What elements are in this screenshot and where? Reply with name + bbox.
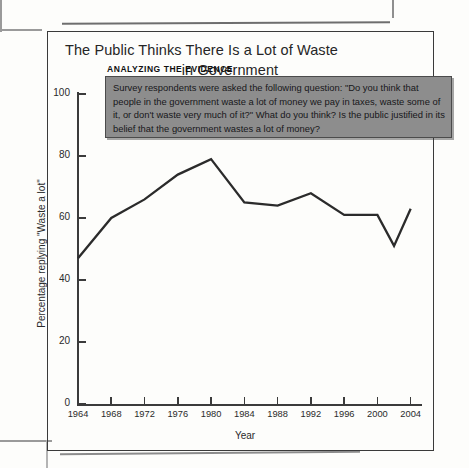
figure-title-line-1: The Public Thinks There Is a Lot of Wast… <box>57 40 387 60</box>
page-margin-tick <box>392 0 394 18</box>
page-rule-left-3 <box>0 440 52 442</box>
y-axis-label: Percentage replying "Waste a lot" <box>36 164 47 344</box>
figure-title: The Public Thinks There Is a Lot of Wast… <box>57 40 387 80</box>
page-rule-left <box>0 0 2 32</box>
page-rule-left-2 <box>0 29 42 31</box>
page-rule-top <box>62 21 390 24</box>
callout-text: Survey respondents were asked the follow… <box>113 81 447 135</box>
callout-heading: ANALYZING THE EVIDENCE <box>107 64 233 74</box>
page-rule-bottom <box>60 451 360 455</box>
